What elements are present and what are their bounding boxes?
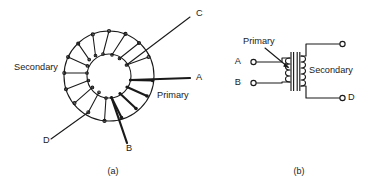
- toroid-inner-circle: [87, 54, 131, 98]
- primary-lead-b: [256, 82, 290, 83]
- panel-b-schematic-transformer: Primary Secondary A B D (b): [235, 36, 355, 176]
- secondary-lead-c: [301, 44, 340, 56]
- caption-a: (a): [108, 166, 119, 176]
- winding-node-primary-inner: [118, 92, 121, 95]
- secondary-lead-d: [301, 86, 340, 98]
- terminal-label-a-a: A: [196, 72, 203, 82]
- terminal-circle-a[interactable]: [251, 59, 256, 64]
- lead-wire-a: [131, 78, 191, 80]
- panel-a-pictorial-toroid: Secondary Primary C A D B (a): [14, 8, 203, 176]
- terminal-circle-b[interactable]: [251, 80, 256, 85]
- terminal-label-b-a: B: [126, 143, 132, 153]
- terminal-circle-d[interactable]: [340, 95, 345, 100]
- terminal-label-d-b: D: [348, 92, 355, 102]
- label-primary-b: Primary: [243, 36, 275, 46]
- lead-wire-d: [51, 112, 88, 139]
- lead-wire-c: [127, 17, 191, 65]
- transformer-figure-svg: Secondary Primary C A D B (a): [0, 0, 370, 190]
- winding-node-primary: [120, 116, 124, 120]
- terminal-circle-c[interactable]: [340, 41, 345, 46]
- secondary-coil: [301, 56, 306, 86]
- caption-b: (b): [294, 166, 305, 176]
- terminal-label-a-b: A: [235, 56, 242, 66]
- primary-coil: [286, 58, 291, 82]
- terminal-label-b-b: B: [235, 77, 241, 87]
- terminal-label-d-a: D: [43, 135, 50, 145]
- label-primary-a: Primary: [157, 90, 189, 100]
- label-secondary-a: Secondary: [14, 62, 58, 72]
- winding-node-primary: [134, 107, 138, 111]
- winding-node-primary-inner: [125, 85, 128, 88]
- primary-lead-a: [256, 58, 290, 62]
- winding-node-primary: [145, 94, 149, 98]
- terminal-label-c-a: C: [196, 8, 203, 18]
- label-secondary-b: Secondary: [309, 65, 353, 75]
- figure-container: Secondary Primary C A D B (a): [0, 0, 370, 190]
